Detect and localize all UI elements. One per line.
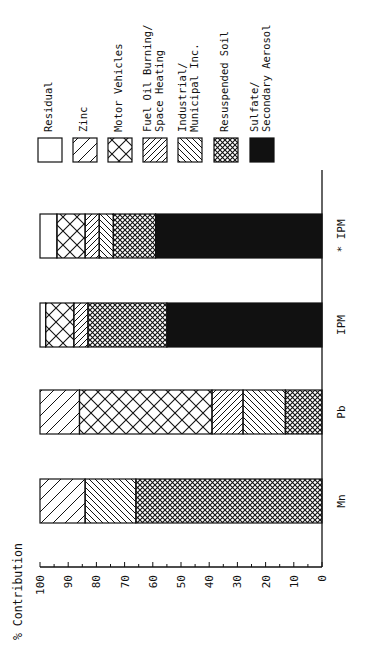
legend: ResidualZincMotor VehiclesFuel Oil Burni…: [38, 25, 274, 162]
legend-label: Residual: [42, 81, 54, 132]
legend-label: Fuel Oil Burning/: [141, 25, 153, 132]
legend-swatch: [250, 138, 274, 162]
bar-segment: [40, 479, 85, 523]
legend-swatch: [143, 138, 167, 162]
bar-segment: [212, 390, 243, 434]
bar-segment: [85, 479, 136, 523]
bar-ipm: [40, 214, 322, 258]
legend-item: Sulfate/Secondary Aerosol: [248, 25, 274, 162]
bar-segment: [40, 390, 79, 434]
legend-swatch: [178, 138, 202, 162]
legend-swatch: [73, 138, 97, 162]
legend-label: Industrial/: [176, 62, 188, 132]
bar-segment: [46, 303, 74, 347]
stacked-bar-chart: 1009080706050403020100% Contribution MnP…: [0, 0, 365, 659]
legend-label: Motor Vehicles: [112, 43, 124, 132]
category-label: * IPM: [335, 219, 348, 252]
tick-label: 20: [260, 575, 273, 588]
bar-segment: [156, 214, 322, 258]
legend-swatch: [108, 138, 132, 162]
tick-label: 100: [34, 575, 47, 595]
bar-segment: [243, 390, 285, 434]
legend-swatch: [214, 138, 238, 162]
bar-mn: [40, 479, 322, 523]
legend-swatch: [38, 138, 62, 162]
legend-label: Resuspended Soil: [218, 31, 230, 132]
legend-label: Municipal Inc.: [188, 43, 200, 132]
bar-segment: [113, 214, 155, 258]
bar-segment: [57, 214, 85, 258]
tick-label: 90: [62, 575, 75, 588]
tick-label: 40: [203, 575, 216, 588]
tick-label: 10: [288, 575, 301, 588]
bar-segment: [99, 214, 113, 258]
legend-label: Zinc: [77, 107, 89, 132]
axis-title: % Contribution: [11, 543, 25, 640]
tick-label: 70: [119, 575, 132, 588]
category-label: Mn: [335, 494, 348, 507]
bar-segment: [136, 479, 322, 523]
bar-pb: [40, 390, 322, 434]
legend-label: Sulfate/: [248, 81, 260, 132]
tick-label: 50: [175, 575, 188, 588]
category-label: IPM: [335, 315, 348, 335]
tick-label: 30: [231, 575, 244, 588]
legend-item: Motor Vehicles: [108, 43, 132, 162]
legend-item: Industrial/Municipal Inc.: [176, 43, 202, 162]
bar-segment: [40, 214, 57, 258]
legend-label: Secondary Aerosol: [260, 25, 272, 132]
bar-ipm: [40, 303, 322, 347]
tick-label: 60: [147, 575, 160, 588]
bar-segment: [85, 214, 99, 258]
legend-item: Resuspended Soil: [214, 31, 238, 162]
bar-segment: [40, 303, 46, 347]
legend-item: Zinc: [73, 107, 97, 162]
tick-label: 80: [90, 575, 103, 588]
category-labels: MnPbIPM* IPM: [335, 219, 348, 508]
plot-area: [40, 214, 322, 523]
legend-item: Residual: [38, 81, 62, 162]
legend-label: Space Heating: [153, 50, 165, 132]
bar-segment: [167, 303, 322, 347]
bar-segment: [285, 390, 322, 434]
legend-item: Fuel Oil Burning/Space Heating: [141, 25, 167, 162]
tick-label: 0: [316, 575, 329, 582]
bar-segment: [88, 303, 167, 347]
bar-segment: [79, 390, 212, 434]
category-label: Pb: [335, 405, 348, 418]
bar-segment: [74, 303, 88, 347]
